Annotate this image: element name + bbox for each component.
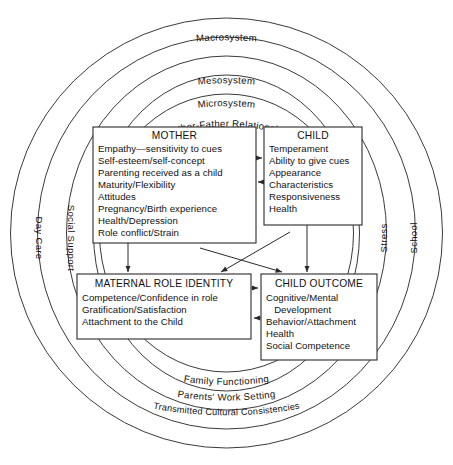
side-label-school: School — [408, 222, 419, 253]
box-mother-item-6: Health/Depression — [98, 215, 178, 226]
box-mother-item-4: Attitudes — [98, 191, 136, 202]
ring-label-mesosystem: Mesosystem — [197, 74, 255, 86]
box-mother-item-1: Self-esteem/self-concept — [98, 155, 205, 166]
box-group: MOTHER Empathy—sensitivity to cues Self-… — [77, 127, 377, 360]
box-child-item-4: Responsiveness — [269, 191, 340, 202]
box-maternal-role-identity-title: MATERNAL ROLE IDENTITY — [95, 278, 234, 289]
box-child[interactable]: CHILD Temperament Ability to give cues A… — [264, 127, 362, 225]
box-child-item-0: Temperament — [269, 143, 328, 154]
ring-label-parents-work-setting: Parents' Work Setting — [177, 388, 276, 402]
diagram-root: Macrosystem Mesosystem Microsystem Mothe… — [0, 0, 453, 465]
ring-label-microsystem: Microsystem — [197, 97, 256, 110]
box-child-outcome-item-2: Behavior/Attachment — [266, 316, 356, 327]
box-mother[interactable]: MOTHER Empathy—sensitivity to cues Self-… — [93, 127, 256, 243]
box-maternal-role-identity[interactable]: MATERNAL ROLE IDENTITY Competence/Confid… — [77, 274, 251, 339]
side-label-stress: Stress — [378, 224, 389, 253]
box-child-outcome-item-0: Cognitive/Mental — [266, 292, 338, 303]
box-child-item-2: Appearance — [269, 167, 321, 178]
box-maternal-role-identity-item-1: Gratification/Satisfaction — [82, 304, 187, 315]
ecological-model-diagram: Macrosystem Mesosystem Microsystem Mothe… — [0, 0, 453, 465]
box-mother-item-0: Empathy—sensitivity to cues — [98, 143, 222, 154]
box-mother-item-7: Role conflict/Strain — [98, 227, 179, 238]
ring-label-macrosystem: Macrosystem — [196, 31, 258, 43]
box-child-outcome-item-4: Social Competence — [266, 340, 350, 351]
box-child-outcome[interactable]: CHILD OUTCOME Cognitive/Mental Developme… — [261, 274, 377, 360]
box-maternal-role-identity-item-0: Competence/Confidence in role — [82, 292, 218, 303]
ring-label-family-functioning: Family Functioning — [183, 373, 269, 387]
box-child-item-5: Health — [269, 203, 297, 214]
box-child-outcome-item-1: Development — [266, 304, 332, 315]
box-child-outcome-item-3: Health — [266, 328, 294, 339]
box-mother-item-5: Pregnancy/Birth experience — [98, 203, 217, 214]
box-child-title: CHILD — [297, 130, 329, 141]
ring-label-transmitted-cultural-consistencies: Transmitted Cultural Consistencies — [153, 401, 301, 418]
side-label-social-support: Social Support — [66, 205, 77, 272]
box-child-item-1: Ability to give cues — [269, 155, 350, 166]
side-label-day-care: Day Care — [34, 217, 45, 260]
box-mother-title: MOTHER — [152, 130, 197, 141]
box-mother-item-3: Maturity/Flexibility — [98, 179, 175, 190]
box-child-outcome-title: CHILD OUTCOME — [275, 278, 363, 289]
box-mother-item-2: Parenting received as a child — [98, 167, 223, 178]
box-child-item-3: Characteristics — [269, 179, 333, 190]
box-maternal-role-identity-item-2: Attachment to the Child — [82, 316, 183, 327]
